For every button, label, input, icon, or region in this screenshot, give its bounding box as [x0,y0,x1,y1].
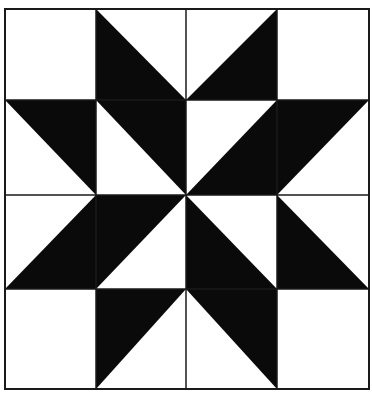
quilt-cell [186,195,277,289]
quilt-block-diagram [0,0,372,402]
quilt-cell [5,9,96,100]
quilt-cell [277,289,369,389]
quilt-cell [96,195,186,289]
quilt-cell [277,9,369,100]
quilt-cell [5,289,96,389]
quilt-cell [5,195,96,289]
quilt-cell [96,289,186,389]
quilt-cell [186,100,277,195]
quilt-cell [5,100,96,195]
quilt-cell [96,9,186,100]
quilt-cell [277,195,369,289]
quilt-cell [277,100,369,195]
quilt-cell [186,9,277,100]
quilt-cell [186,289,277,389]
quilt-cell [96,100,186,195]
